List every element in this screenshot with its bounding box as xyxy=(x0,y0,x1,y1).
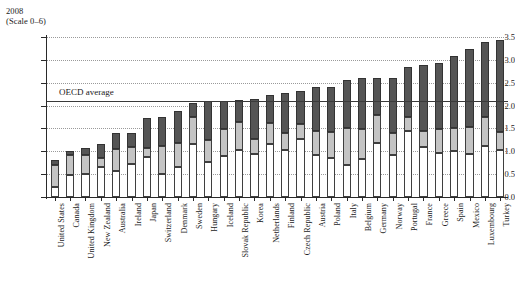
bar-spain xyxy=(450,56,458,197)
bar-segment-low xyxy=(481,146,489,197)
bar-ireland xyxy=(127,133,135,197)
bar-segment-high xyxy=(97,144,105,158)
bar-netherlands xyxy=(266,95,274,197)
bar-segment-low xyxy=(266,144,274,197)
bar-segment-mid xyxy=(496,132,504,150)
bar-segment-high xyxy=(373,78,381,115)
bar-segment-mid xyxy=(465,127,473,154)
bar-segment-low xyxy=(419,147,427,197)
x-tick-label-turkey: Turkey xyxy=(503,203,511,226)
bar-segment-low xyxy=(158,174,166,197)
x-tick-mark xyxy=(454,197,455,201)
x-tick-mark xyxy=(331,197,332,201)
bar-italy xyxy=(343,80,351,197)
bar-sweden xyxy=(189,103,197,197)
bar-segment-high xyxy=(296,91,304,125)
bar-segment-mid xyxy=(358,129,366,159)
x-tick-mark xyxy=(116,197,117,201)
x-tick-mark xyxy=(193,197,194,201)
bar-segment-low xyxy=(404,131,412,197)
bar-segment-low xyxy=(189,144,197,197)
oecd-average-line xyxy=(47,101,508,102)
x-tick-mark xyxy=(377,197,378,201)
y-tick-mark xyxy=(41,174,46,175)
bar-segment-high xyxy=(465,49,473,127)
bar-segment-mid xyxy=(189,117,197,144)
x-tick-mark xyxy=(162,197,163,201)
bar-segment-high xyxy=(435,63,443,130)
x-tick-label-new-zealand: New Zealand xyxy=(104,203,112,247)
bar-united-states xyxy=(51,160,59,197)
x-tick-label-greece: Greece xyxy=(442,203,450,226)
bar-france xyxy=(419,65,427,197)
bar-finland xyxy=(281,93,289,197)
bar-segment-high xyxy=(450,56,458,128)
y-tick-mark xyxy=(41,60,46,61)
x-tick-label-slovak-republic: Slovak Republic xyxy=(242,203,250,258)
x-tick-mark xyxy=(470,197,471,201)
x-tick-mark xyxy=(485,197,486,201)
bar-segment-mid xyxy=(281,133,289,150)
bar-iceland xyxy=(220,101,228,197)
bar-segment-mid xyxy=(66,155,74,175)
bar-germany xyxy=(373,78,381,197)
y-tick-mark xyxy=(41,37,46,38)
bar-segment-low xyxy=(435,153,443,197)
x-tick-mark xyxy=(423,197,424,201)
bar-segment-low xyxy=(51,187,59,198)
bar-segment-mid xyxy=(481,117,489,146)
bar-segment-mid xyxy=(204,140,212,161)
bar-segment-low xyxy=(66,175,74,197)
bar-series xyxy=(47,37,508,197)
bar-new-zealand xyxy=(97,144,105,197)
bar-segment-low xyxy=(97,167,105,197)
x-tick-mark xyxy=(301,197,302,201)
bar-segment-mid xyxy=(112,149,120,170)
bar-segment-mid xyxy=(450,128,458,151)
x-tick-mark xyxy=(439,197,440,201)
bar-segment-mid xyxy=(312,131,320,154)
x-tick-label-sweden: Sweden xyxy=(196,203,204,229)
bar-czech-republic xyxy=(296,91,304,198)
x-tick-mark xyxy=(178,197,179,201)
bar-segment-low xyxy=(250,154,258,197)
bar-segment-mid xyxy=(435,129,443,152)
chart-year-caption: 2008 xyxy=(6,6,23,16)
bar-denmark xyxy=(174,111,182,197)
bar-segment-high xyxy=(174,111,182,143)
bar-segment-high xyxy=(235,100,243,122)
bar-segment-mid xyxy=(51,165,59,186)
bar-luxembourg xyxy=(481,42,489,197)
bar-segment-low xyxy=(373,143,381,197)
x-tick-label-spain: Spain xyxy=(457,203,465,222)
bar-segment-mid xyxy=(97,158,105,167)
x-tick-mark xyxy=(362,197,363,201)
bar-segment-high xyxy=(204,101,212,140)
bar-austria xyxy=(312,87,320,197)
bar-segment-high xyxy=(66,151,74,155)
bar-segment-low xyxy=(112,171,120,197)
x-tick-mark xyxy=(85,197,86,201)
bar-segment-low xyxy=(358,159,366,197)
bar-canada xyxy=(66,151,74,197)
bar-belgium xyxy=(358,78,366,197)
x-tick-label-portugal: Portugal xyxy=(411,203,419,231)
bar-segment-mid xyxy=(266,123,274,144)
y-tick-mark xyxy=(41,106,46,107)
x-tick-mark xyxy=(254,197,255,201)
x-tick-label-iceland: Iceland xyxy=(227,203,235,227)
bar-united-kingdom xyxy=(81,148,89,197)
bar-turkey xyxy=(496,40,504,197)
x-tick-label-japan: Japan xyxy=(150,203,158,222)
bar-segment-low xyxy=(127,164,135,197)
bar-segment-mid xyxy=(220,129,228,156)
x-tick-label-france: France xyxy=(426,203,434,225)
x-tick-mark xyxy=(70,197,71,201)
bar-segment-mid xyxy=(419,131,427,147)
x-tick-label-korea: Korea xyxy=(257,203,265,223)
bar-segment-mid xyxy=(327,132,335,158)
y-tick-mark xyxy=(41,151,46,152)
bar-segment-low xyxy=(389,155,397,198)
x-tick-label-norway: Norway xyxy=(396,203,404,229)
bar-segment-high xyxy=(143,118,151,148)
